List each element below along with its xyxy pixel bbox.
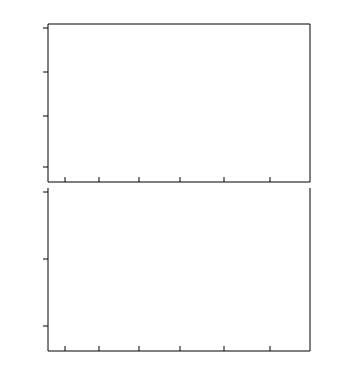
bottom-panel xyxy=(43,188,310,351)
figure-container xyxy=(0,0,347,387)
top-panel-yticks xyxy=(43,28,48,167)
figure-svg xyxy=(0,0,347,387)
top-panel-frame xyxy=(48,24,310,182)
top-panel-xticks xyxy=(65,177,270,182)
bottom-panel-frame xyxy=(48,188,310,351)
bottom-panel-xticks xyxy=(65,346,270,351)
bottom-panel-yticks xyxy=(43,192,48,326)
top-panel xyxy=(43,24,310,182)
